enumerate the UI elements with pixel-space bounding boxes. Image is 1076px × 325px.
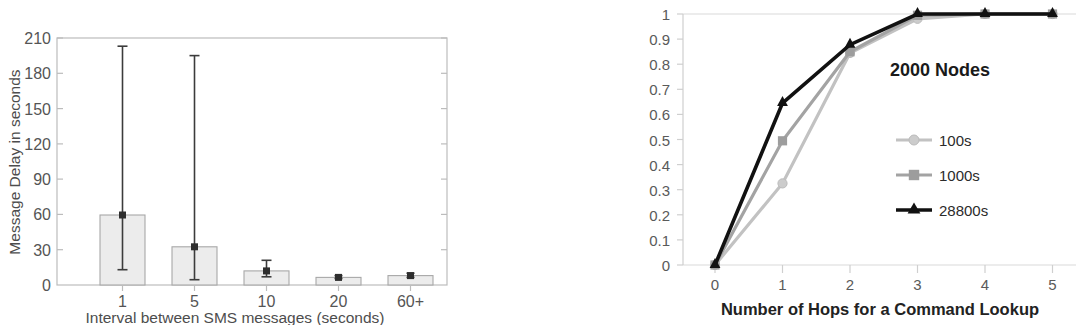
y-axis-ticks: 210 180 150 120 90 60	[24, 30, 447, 294]
chart-annotation-2000-nodes: 2000 Nodes	[890, 60, 990, 80]
y-tick-label: 90	[33, 171, 51, 188]
x-axis-ticks: 1 5 10 20 60+	[118, 285, 424, 310]
y-tick-label: 0.1	[649, 232, 670, 249]
y-axis: 1 0.9 0.8 0.7 0.6 0.5 0.4 0.3 0.2 0.1 0	[649, 6, 683, 274]
x-tick-label: 1	[118, 293, 127, 310]
x-tick-label: 0	[711, 276, 719, 293]
line-chart-svg: 1 0.9 0.8 0.7 0.6 0.5 0.4 0.3 0.2 0.1 0	[560, 0, 1076, 325]
legend-item-100s: 100s	[896, 132, 972, 149]
y-tick-label: 150	[24, 101, 51, 118]
legend-label: 100s	[939, 132, 972, 149]
x-axis: 0 1 2 3 4 5	[711, 265, 1057, 293]
x-tick-label: 10	[258, 293, 276, 310]
y-tick-label: 0	[42, 277, 51, 294]
x-tick-label: 1	[778, 276, 786, 293]
series-1000s	[710, 9, 1057, 269]
x-tick-label: 5	[190, 293, 199, 310]
line-chart-panel: 1 0.9 0.8 0.7 0.6 0.5 0.4 0.3 0.2 0.1 0	[560, 0, 1076, 325]
y-axis-title: Message Delay in seconds	[6, 69, 23, 254]
y-tick-label: 210	[24, 30, 51, 47]
legend-label: 1000s	[939, 167, 980, 184]
x-tick-label: 3	[913, 276, 921, 293]
x-axis-title: Interval between SMS messages (seconds)	[86, 309, 385, 325]
y-tick-label: 0.9	[649, 31, 670, 48]
x-tick-label: 4	[981, 276, 989, 293]
y-tick-label: 0.2	[649, 207, 670, 224]
bar-chart-svg: Message Delay in seconds 210 180 150	[0, 0, 560, 325]
legend-label: 28800s	[939, 202, 988, 219]
bar-chart-panel: Message Delay in seconds 210 180 150	[0, 0, 560, 325]
x-tick-label: 5	[1048, 276, 1056, 293]
series-28800s	[710, 7, 1058, 268]
y-tick-label: 0.5	[649, 132, 670, 149]
y-tick-label: 0.4	[649, 157, 670, 174]
y-tick-label: 120	[24, 136, 51, 153]
legend-marker-square-icon	[909, 170, 919, 180]
figure-container: Message Delay in seconds 210 180 150	[0, 0, 1076, 325]
legend-item-28800s: 28800s	[896, 202, 988, 219]
legend-marker-circle-icon	[909, 135, 919, 145]
y-tick-label: 1	[662, 6, 670, 23]
x-tick-label: 2	[846, 276, 854, 293]
gridlines	[683, 14, 1076, 265]
x-tick-label: 60+	[397, 293, 424, 310]
legend-marker-triangle-icon	[908, 203, 921, 214]
y-tick-label: 0.7	[649, 81, 670, 98]
series-100s	[710, 9, 1057, 269]
y-tick-label: 0.8	[649, 56, 670, 73]
mean-markers	[119, 212, 414, 281]
y-tick-label: 0	[662, 257, 670, 274]
y-tick-label: 0.6	[649, 106, 670, 123]
x-axis-title: Number of Hops for a Command Lookup	[721, 300, 1039, 318]
error-bars	[118, 46, 415, 280]
y-tick-label: 60	[33, 206, 51, 223]
x-tick-label: 20	[330, 293, 348, 310]
legend-item-1000s: 1000s	[896, 167, 980, 184]
y-tick-label: 0.3	[649, 182, 670, 199]
y-tick-label: 30	[33, 242, 51, 259]
legend: 100s 1000s 28800s	[896, 132, 988, 219]
y-tick-label: 180	[24, 65, 51, 82]
